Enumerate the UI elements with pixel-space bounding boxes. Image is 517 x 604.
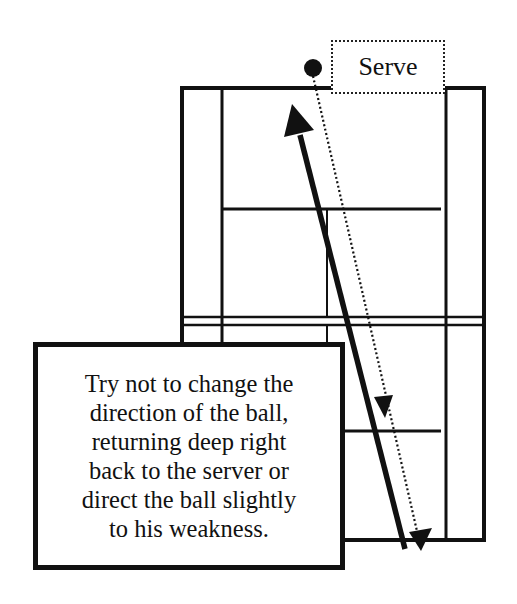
diagram-canvas: Serve Try not to change the direction of… — [0, 0, 517, 604]
instruction-note-text: Try not to change the direction of the b… — [82, 369, 296, 543]
return-arrowhead — [284, 104, 314, 137]
ball-icon — [304, 59, 322, 77]
note-line: Try not to change the — [82, 369, 296, 398]
serve-label-text: Serve — [358, 52, 417, 82]
note-line: back to the server or — [82, 456, 296, 485]
note-line: returning deep right — [82, 427, 296, 456]
note-line: to his weakness. — [82, 514, 296, 543]
serve-label: Serve — [331, 40, 445, 94]
instruction-note-box: Try not to change the direction of the b… — [33, 342, 345, 570]
note-line: direction of the ball, — [82, 398, 296, 427]
note-line: direct the ball slightly — [82, 485, 296, 514]
